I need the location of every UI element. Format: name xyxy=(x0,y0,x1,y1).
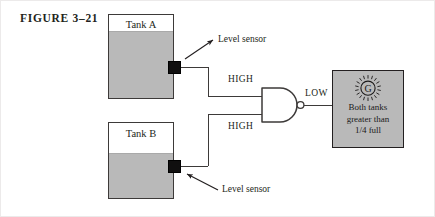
indicator-lamp-text: Both tanks greater than 1/4 full xyxy=(333,102,403,137)
lamp-icon: G xyxy=(353,75,383,103)
tank-b-sensor xyxy=(168,160,181,173)
wire-tank-a-horizontal-2 xyxy=(208,96,262,97)
figure-3-21: FIGURE 3–21 Tank A Level sensor Tank B L… xyxy=(0,0,435,217)
wire-tank-b-vertical xyxy=(208,114,209,166)
signal-label-tank-b-high: HIGH xyxy=(228,121,253,131)
tank-a-callout-label: Level sensor xyxy=(218,34,266,44)
wire-gate-output xyxy=(304,105,332,106)
indicator-lamp-box: G Both tanks greater than 1/4 full xyxy=(332,70,404,148)
tank-b-callout-arrow xyxy=(184,172,220,194)
figure-caption: FIGURE 3–21 xyxy=(20,12,98,24)
tank-a-sensor xyxy=(168,61,181,74)
tank-a-label: Tank A xyxy=(109,19,173,30)
indicator-line-3: 1/4 full xyxy=(333,125,403,137)
tank-b-callout-label: Level sensor xyxy=(222,184,270,194)
signal-label-tank-a-high: HIGH xyxy=(228,74,253,84)
tank-a-callout-arrow xyxy=(182,38,216,64)
wire-tank-b-horizontal-2 xyxy=(208,114,262,115)
indicator-line-1: Both tanks xyxy=(333,102,403,114)
indicator-line-2: greater than xyxy=(333,114,403,126)
lamp-glyph-letter: G xyxy=(364,83,371,94)
nand-gate xyxy=(260,85,306,125)
wire-tank-b-horizontal-1 xyxy=(181,166,208,167)
tank-a-liquid xyxy=(109,31,173,98)
wire-tank-a-vertical xyxy=(208,67,209,96)
tank-b: Tank B xyxy=(108,122,174,199)
tank-a: Tank A xyxy=(108,14,174,99)
tank-b-liquid xyxy=(109,153,173,198)
wire-tank-a-horizontal-1 xyxy=(181,67,208,68)
signal-label-gate-low: LOW xyxy=(305,88,328,98)
tank-b-label: Tank B xyxy=(109,128,173,139)
